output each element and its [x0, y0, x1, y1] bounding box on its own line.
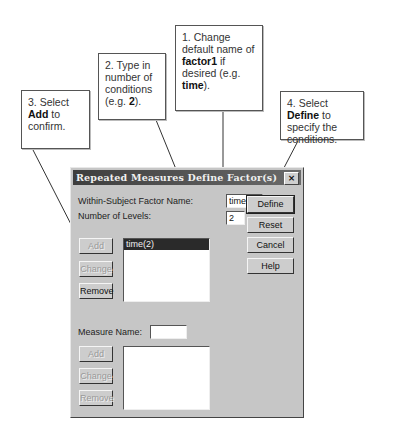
- dialog-title: Repeated Measures Define Factor(s): [76, 172, 277, 183]
- factor-add-button[interactable]: Add: [79, 238, 113, 254]
- callout-text: 2. Type in number of conditions (e.g. 2)…: [105, 59, 152, 107]
- close-icon[interactable]: ×: [284, 172, 299, 185]
- define-button[interactable]: Define: [247, 196, 294, 213]
- factor-change-button[interactable]: Change: [79, 261, 113, 277]
- measure-name-label: Measure Name:: [78, 327, 142, 337]
- callout-text: 3. Select Add to confirm.: [28, 96, 69, 132]
- help-button[interactable]: Help: [247, 258, 294, 274]
- factor-list-item[interactable]: time(2): [124, 239, 209, 250]
- dialog-titlebar[interactable]: Repeated Measures Define Factor(s) ×: [73, 170, 301, 185]
- callout-text: 4. Select Define to specify the conditio…: [287, 97, 337, 145]
- measure-change-button[interactable]: Change: [79, 368, 113, 384]
- levels-input[interactable]: [226, 211, 245, 225]
- factor-listbox[interactable]: time(2): [123, 238, 210, 302]
- factor-name-label: Within-Subject Factor Name:: [78, 196, 193, 206]
- measure-remove-button[interactable]: Remove: [79, 390, 113, 406]
- repeated-measures-dialog: Repeated Measures Define Factor(s) × Wit…: [70, 167, 304, 418]
- measure-add-button[interactable]: Add: [79, 346, 113, 362]
- callout-change-factor-name: 1. Change default name of factor1 if des…: [175, 25, 263, 111]
- reset-button[interactable]: Reset: [247, 217, 294, 233]
- levels-label: Number of Levels:: [78, 211, 151, 221]
- measure-name-input[interactable]: [150, 325, 187, 339]
- callout-number-of-levels: 2. Type in number of conditions (e.g. 2)…: [98, 53, 166, 120]
- callout-text: 1. Change default name of factor1 if des…: [182, 31, 254, 91]
- measure-listbox[interactable]: [123, 346, 210, 410]
- callout-select-define: 4. Select Define to specify the conditio…: [280, 91, 364, 140]
- callout-select-add: 3. Select Add to confirm.: [21, 90, 90, 149]
- factor-remove-button[interactable]: Remove: [79, 283, 113, 299]
- cancel-button[interactable]: Cancel: [247, 237, 294, 253]
